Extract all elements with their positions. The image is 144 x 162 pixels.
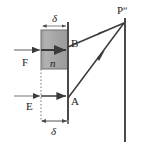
label-point-b: B: [71, 38, 78, 49]
label-offset-delta: δ: [51, 126, 56, 137]
label-ray-e: E: [26, 101, 33, 112]
dimension-bottom-group: [42, 113, 68, 124]
diagram-canvas: [0, 0, 144, 162]
emergent-ray-a-arrowhead: [97, 50, 105, 61]
label-image-point-p: Pʺ: [117, 5, 127, 16]
label-ray-f: F: [22, 57, 28, 68]
optics-ray-diagram: Pʺ B A F E n δ δ: [0, 0, 144, 162]
label-refractive-index-n: n: [50, 58, 56, 69]
label-slab-thickness-delta: δ: [52, 13, 57, 24]
label-point-a: A: [71, 96, 79, 107]
